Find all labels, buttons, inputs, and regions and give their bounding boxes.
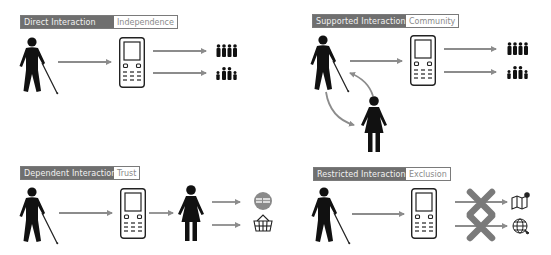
mobile-phone-icon (121, 189, 146, 239)
globe-web-icon (513, 219, 529, 234)
panel-restricted-interaction (312, 187, 530, 244)
header-direct-interaction: Direct Interaction Independence (20, 15, 178, 29)
interaction-type-label: Dependent Interaction (21, 167, 114, 179)
blind-person-icon (312, 187, 351, 244)
diagram-canvas (0, 0, 551, 255)
mobile-phone-icon (120, 38, 145, 88)
blocked-cross-icon (470, 192, 492, 214)
outcome-label: Exclusion (406, 168, 450, 180)
panel-direct-interaction (20, 37, 238, 94)
community-group-icon (508, 42, 529, 55)
panel-dependent-interaction (20, 185, 273, 244)
mobile-phone-icon (412, 189, 437, 239)
family-group-icon (507, 66, 527, 79)
header-restricted-interaction: Restricted Interaction Exclusion (313, 167, 451, 181)
outcome-label: Independence (114, 16, 177, 28)
map-icon (512, 193, 529, 209)
family-group-icon (216, 67, 236, 80)
blind-person-icon (20, 37, 59, 94)
blind-person-icon (311, 35, 350, 92)
interaction-type-label: Direct Interaction (21, 16, 114, 28)
outcome-label: Trust (114, 167, 139, 179)
header-supported-interaction: Supported Interaction Community (312, 14, 459, 28)
outcome-label: Community (406, 15, 458, 27)
blind-person-icon (20, 187, 59, 244)
header-dependent-interaction: Dependent Interaction Trust (20, 166, 140, 180)
money-payment-icon (254, 192, 272, 210)
curved-arrow-icon (326, 92, 354, 125)
community-group-icon (217, 44, 238, 57)
mobile-phone-icon (411, 36, 436, 86)
woman-supporter-icon (361, 96, 387, 152)
curved-arrow-icon (350, 73, 373, 96)
interaction-type-label: Supported Interaction (313, 15, 406, 27)
interaction-type-label: Restricted Interaction (314, 168, 406, 180)
blocked-cross-icon (470, 216, 492, 238)
panel-supported-interaction (311, 35, 529, 152)
shopping-basket-icon (254, 215, 272, 231)
woman-intermediary-icon (178, 185, 204, 241)
